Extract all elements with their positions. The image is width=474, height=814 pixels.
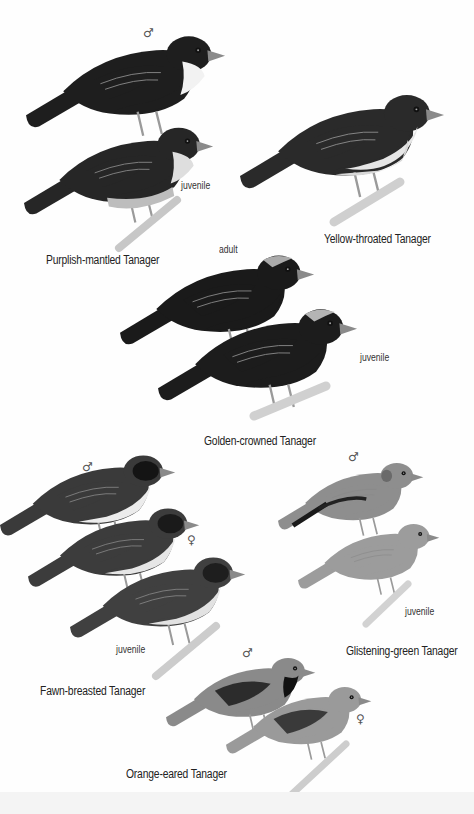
branch — [115, 196, 185, 251]
species-label-orange-eared: Orange-eared Tanager — [126, 767, 227, 781]
species-label-golden-crowned: Golden-crowned Tanager — [204, 434, 316, 448]
species-label-glistening-green: Glistening-green Tanager — [346, 644, 458, 658]
field-guide-plate: ♂ juvenile Purplish-mantled Tanager Yell… — [0, 0, 474, 814]
branch — [330, 176, 405, 226]
page-edge — [0, 792, 474, 814]
species-label-fawn-breasted: Fawn-breasted Tanager — [40, 684, 145, 698]
branch — [250, 380, 330, 420]
species-label-yellow-throated: Yellow-throated Tanager — [324, 232, 431, 246]
annotation-juvenile: juvenile — [181, 180, 210, 191]
female-symbol: ♀ — [187, 533, 196, 547]
annotation-juvenile: juvenile — [116, 644, 145, 655]
branch — [288, 740, 350, 798]
female-symbol: ♀ — [356, 712, 365, 726]
annotation-juvenile: juvenile — [360, 352, 389, 363]
male-symbol: ♂ — [143, 26, 154, 40]
annotation-juvenile: juvenile — [405, 606, 434, 617]
branch — [362, 580, 412, 628]
